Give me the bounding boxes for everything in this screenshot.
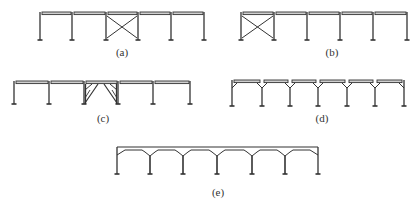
girder-beam <box>155 81 189 84</box>
y-branch <box>262 83 267 88</box>
panel-c-frame <box>12 81 193 104</box>
haunched-arch-beam <box>290 150 318 155</box>
y-branch <box>290 83 295 88</box>
haunched-arch-beam <box>222 150 247 152</box>
girder-beam <box>108 12 137 15</box>
y-branch <box>145 152 150 156</box>
girder-beam <box>375 12 406 15</box>
y-branch <box>178 152 183 156</box>
panel-c-caption: (c) <box>97 112 109 124</box>
panel-a-caption: (a) <box>116 46 128 58</box>
girder-beam <box>309 12 339 15</box>
girder-beam <box>276 12 306 15</box>
girder-beam <box>74 12 105 15</box>
girder-beam <box>234 80 260 83</box>
y-branch <box>212 152 217 156</box>
y-branch <box>370 83 375 88</box>
girder-beam <box>86 81 117 84</box>
girder-beam <box>292 80 316 83</box>
girder-beam <box>264 80 288 83</box>
girder-beam <box>51 81 83 84</box>
haunched-arch-beam <box>155 150 178 152</box>
structural-frames-diagram <box>0 0 418 208</box>
y-branch <box>257 83 262 88</box>
girder-beam <box>173 12 203 15</box>
panel-d-caption: (d) <box>316 112 329 124</box>
y-branch <box>342 83 347 88</box>
panel-e-caption: (e) <box>212 186 224 198</box>
y-branch <box>247 152 252 156</box>
girder-beam <box>342 12 372 15</box>
girder-beam <box>320 80 345 83</box>
haunched-arch-beam <box>188 150 212 152</box>
y-branch <box>318 83 323 88</box>
girder-beam <box>140 12 170 15</box>
girder-beam <box>243 12 273 15</box>
y-branch <box>375 83 380 88</box>
y-branch <box>232 83 237 88</box>
y-branch <box>285 83 290 88</box>
panel-e-frame <box>115 147 321 174</box>
y-branch <box>313 83 318 88</box>
girder-beam <box>42 12 71 15</box>
y-branch <box>252 152 257 156</box>
girder-beam <box>120 81 152 84</box>
girder-beam <box>16 81 48 84</box>
girder-beam <box>377 80 402 83</box>
panel-d-frame <box>230 80 407 106</box>
knee-brace <box>104 84 117 103</box>
y-branch <box>347 83 352 88</box>
girder-beam <box>349 80 373 83</box>
y-branch <box>183 152 188 156</box>
panel-b-frame <box>239 12 410 40</box>
panel-a-frame <box>38 12 207 40</box>
panel-b-caption: (b) <box>326 46 339 58</box>
y-branch <box>150 152 155 156</box>
y-branch <box>280 152 285 156</box>
y-branch <box>217 152 222 156</box>
y-branch <box>399 83 404 88</box>
haunched-arch-beam <box>117 150 145 155</box>
knee-brace <box>85 84 98 103</box>
y-branch <box>285 152 290 156</box>
haunched-arch-beam <box>257 150 280 152</box>
